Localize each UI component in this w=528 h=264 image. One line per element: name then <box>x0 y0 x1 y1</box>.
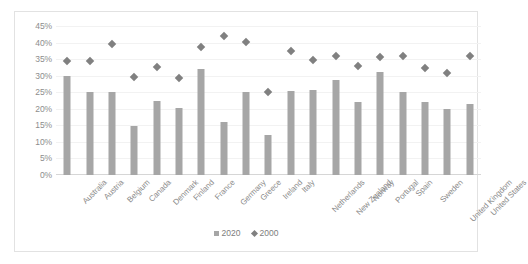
bar-2020[interactable] <box>466 104 473 175</box>
bar-2020[interactable] <box>153 101 160 175</box>
category-column <box>56 26 78 175</box>
y-axis-tick-label: 10% <box>35 137 52 147</box>
bar-2020[interactable] <box>444 109 451 175</box>
chart-legend: 20202000 <box>15 228 477 238</box>
category-column <box>190 26 212 175</box>
y-axis-tick-label: 30% <box>35 71 52 81</box>
bar-2020[interactable] <box>176 108 183 175</box>
bar-2020[interactable] <box>332 80 339 175</box>
y-axis: 45%40%35%30%25%20%15%10%5%0% <box>15 26 52 175</box>
marker-2000[interactable] <box>220 32 228 40</box>
marker-2000[interactable] <box>130 73 138 81</box>
category-column <box>235 26 257 175</box>
y-axis-tick-label: 5% <box>40 153 52 163</box>
bar-2020[interactable] <box>108 92 115 175</box>
bar-2020[interactable] <box>131 126 138 175</box>
y-axis-tick-label: 35% <box>35 54 52 64</box>
bar-2020[interactable] <box>287 91 294 175</box>
bar-2020[interactable] <box>64 76 71 175</box>
marker-2000[interactable] <box>63 57 71 65</box>
legend-label: 2020 <box>222 228 241 238</box>
bar-2020[interactable] <box>220 122 227 175</box>
bar-2020[interactable] <box>310 90 317 175</box>
x-axis-category-label: Italy <box>300 178 316 194</box>
y-axis-tick-label: 0% <box>40 170 52 180</box>
marker-2000[interactable] <box>443 69 451 77</box>
bar-2020[interactable] <box>243 92 250 175</box>
x-axis-category-label: France <box>214 178 238 202</box>
chart-container: 45%40%35%30%25%20%15%10%5%0% AustraliaAu… <box>14 11 478 252</box>
category-column <box>257 26 279 175</box>
marker-2000[interactable] <box>85 57 93 65</box>
marker-2000[interactable] <box>331 52 339 60</box>
category-column <box>324 26 346 175</box>
marker-2000[interactable] <box>354 61 362 69</box>
category-column <box>369 26 391 175</box>
category-column <box>392 26 414 175</box>
category-column <box>213 26 235 175</box>
marker-2000[interactable] <box>264 88 272 96</box>
x-axis-category-label: Canada <box>147 178 173 204</box>
plot-area <box>56 26 481 175</box>
legend-item[interactable]: 2020 <box>214 228 241 238</box>
bar-2020[interactable] <box>265 135 272 175</box>
marker-2000[interactable] <box>242 38 250 46</box>
category-column <box>168 26 190 175</box>
bar-2020[interactable] <box>399 92 406 175</box>
bar-2020[interactable] <box>86 92 93 175</box>
legend-item[interactable]: 2000 <box>252 228 279 238</box>
category-column <box>302 26 324 175</box>
category-column <box>123 26 145 175</box>
x-axis-category-label: Ireland <box>280 178 303 201</box>
x-axis-category-label: Belgium <box>125 178 151 204</box>
bar-2020[interactable] <box>377 72 384 175</box>
category-column <box>280 26 302 175</box>
bar-2020[interactable] <box>354 102 361 176</box>
marker-2000[interactable] <box>152 63 160 71</box>
category-column <box>101 26 123 175</box>
y-axis-tick-label: 45% <box>35 21 52 31</box>
category-column <box>436 26 458 175</box>
marker-2000[interactable] <box>309 56 317 64</box>
category-column <box>347 26 369 175</box>
y-axis-tick-label: 40% <box>35 38 52 48</box>
y-axis-tick-label: 15% <box>35 120 52 130</box>
y-axis-tick-label: 20% <box>35 104 52 114</box>
legend-diamond-icon <box>250 229 257 236</box>
category-column <box>414 26 436 175</box>
marker-2000[interactable] <box>287 47 295 55</box>
bar-2020[interactable] <box>198 69 205 175</box>
marker-2000[interactable] <box>376 53 384 61</box>
marker-2000[interactable] <box>108 40 116 48</box>
legend-label: 2000 <box>260 228 279 238</box>
marker-2000[interactable] <box>175 74 183 82</box>
x-axis-category-label: Sweden <box>438 178 464 204</box>
y-axis-tick-label: 25% <box>35 87 52 97</box>
marker-2000[interactable] <box>466 52 474 60</box>
marker-2000[interactable] <box>398 52 406 60</box>
category-column <box>145 26 167 175</box>
bar-2020[interactable] <box>422 102 429 175</box>
category-column <box>78 26 100 175</box>
marker-2000[interactable] <box>197 42 205 50</box>
marker-2000[interactable] <box>421 64 429 72</box>
legend-square-icon <box>214 231 219 236</box>
category-column <box>459 26 481 175</box>
